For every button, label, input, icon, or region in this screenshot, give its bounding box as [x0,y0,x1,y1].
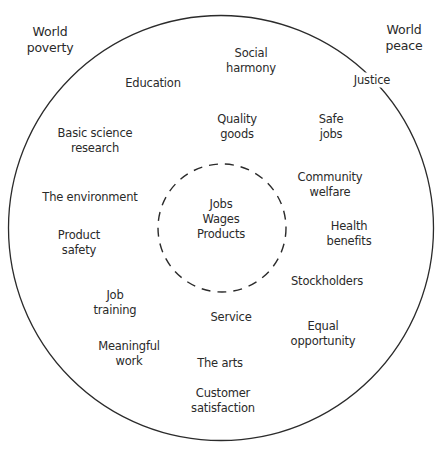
label-community-welfare: Community welfare [298,170,363,200]
label-stockholders: Stockholders [291,274,363,289]
label-the-arts: The arts [197,356,243,371]
label-the-environment: The environment [42,190,137,205]
label-world-poverty: World poverty [27,24,74,56]
label-safe-jobs: Safe jobs [319,112,344,142]
label-meaningful-work: Meaningful work [98,339,160,369]
label-health-benefits: Health benefits [327,219,372,249]
label-education: Education [125,76,180,91]
label-product-safety: Product safety [58,228,100,258]
label-equal-opportunity: Equal opportunity [291,319,356,349]
label-customer-satisfaction: Customer satisfaction [191,386,255,416]
label-world-peace: World peace [386,22,423,54]
label-service: Service [210,310,251,325]
label-core-jobs-wages-products: Jobs Wages Products [197,197,245,242]
label-quality-goods: Quality goods [217,112,257,142]
label-job-training: Job training [94,288,137,318]
label-basic-science-research: Basic science research [58,126,133,156]
label-social-harmony: Social harmony [226,46,276,76]
label-justice: Justice [352,73,392,88]
